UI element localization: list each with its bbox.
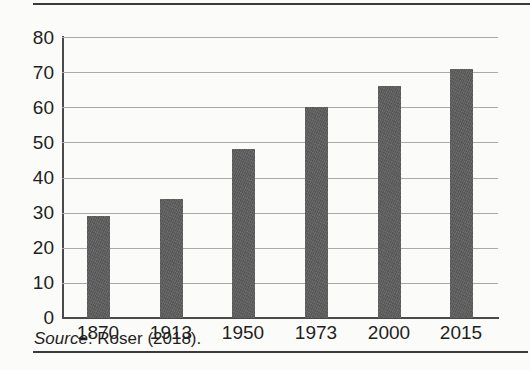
- bar-1870: [87, 216, 110, 318]
- figure-top-rule: [33, 3, 530, 5]
- gridline-40: [62, 178, 498, 179]
- plot-area: [62, 37, 498, 318]
- y-tick-label-30: 30: [8, 203, 54, 222]
- source-note-text: : Roser (2018).: [88, 329, 201, 348]
- y-axis-tick-labels: 80 70 60 50 40 30 20 10 0: [0, 0, 56, 370]
- y-tick-label-50: 50: [8, 133, 54, 152]
- x-tick-label-1950: 1950: [207, 323, 279, 342]
- gridline-20: [62, 248, 498, 249]
- y-tick-label-20: 20: [8, 238, 54, 257]
- gridline-30: [62, 213, 498, 214]
- bar-2015: [450, 69, 473, 318]
- bar-1913: [160, 199, 183, 318]
- gridline-80: [62, 37, 498, 38]
- gridline-60: [62, 107, 498, 108]
- x-tick-label-1973: 1973: [280, 323, 352, 342]
- gridline-50: [62, 142, 498, 143]
- y-tick-label-10: 10: [8, 273, 54, 292]
- gridline-70: [62, 72, 498, 73]
- x-tick-label-2000: 2000: [353, 323, 425, 342]
- source-note: Source: Roser (2018).: [34, 329, 201, 349]
- bar-1950: [232, 149, 255, 318]
- y-tick-label-80: 80: [8, 28, 54, 47]
- x-tick-label-2015: 2015: [425, 323, 497, 342]
- source-note-label: Source: [34, 329, 88, 348]
- y-tick-label-60: 60: [8, 98, 54, 117]
- y-tick-label-40: 40: [8, 168, 54, 187]
- figure-container: 80 70 60 50 40 30 20 10 0 1870 1913 1950…: [0, 0, 530, 370]
- y-tick-label-70: 70: [8, 63, 54, 82]
- figure-bottom-rule: [33, 351, 528, 353]
- bar-2000: [378, 86, 401, 318]
- bar-1973: [305, 107, 328, 318]
- y-tick-label-0: 0: [8, 308, 54, 327]
- gridline-10: [62, 283, 498, 284]
